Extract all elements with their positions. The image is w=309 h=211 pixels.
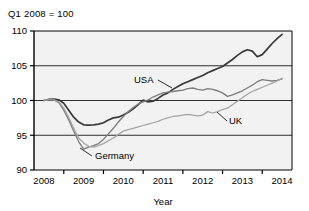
x-axis-tick-labels: 2008200920102011201220132014 (33, 175, 292, 186)
y-tick-label: 105 (11, 60, 27, 71)
x-tick-label: 2010 (113, 175, 134, 186)
y-tick-label: 95 (16, 130, 27, 141)
x-tick-label: 2013 (232, 175, 253, 186)
y-tick-label: 110 (12, 25, 27, 36)
x-tick-label: 2014 (272, 175, 293, 186)
y-tick-label: 90 (16, 164, 27, 175)
series-label-germany: Germany (95, 150, 134, 161)
x-tick-label: 2012 (192, 175, 213, 186)
x-axis-ticks (64, 170, 262, 174)
x-axis-title: Year (153, 196, 172, 207)
x-tick-label: 2008 (33, 175, 54, 186)
series-label-uk: UK (229, 115, 243, 126)
x-tick-label: 2009 (73, 175, 94, 186)
y-tick-label: 100 (11, 95, 27, 106)
x-tick-label: 2011 (153, 175, 173, 186)
line-chart: 9095100105110 20082009201020112012201320… (0, 0, 309, 211)
chart-container: Q1 2008 = 100 9095100105110 200820092010… (0, 0, 309, 211)
series-label-usa: USA (134, 74, 154, 85)
y-axis-tick-labels: 9095100105110 (11, 25, 27, 175)
